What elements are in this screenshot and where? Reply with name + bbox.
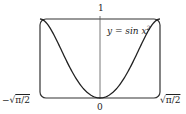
x-tick-zero: 0 (97, 103, 103, 112)
y-tick-1: 1 (98, 4, 104, 13)
x-tick-left: −√π/2 (2, 96, 30, 105)
curve-label: y = sin x2 (107, 25, 150, 36)
x-tick-right: √π/2 (160, 96, 180, 105)
